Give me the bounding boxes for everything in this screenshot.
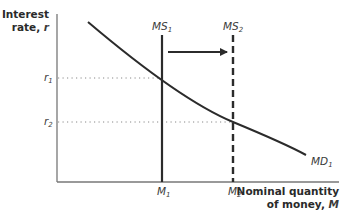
y-axis-title-line1: Interest [2,8,49,20]
m1-label: M1 [157,185,171,199]
x-axis-title-line2: of money, M [267,198,340,210]
money-market-diagram: Interest rate, r r1 r2 MS1 MS2 MD1 M1 M2… [0,0,354,219]
ms1-label: MS1 [152,20,172,34]
ms2-label: MS2 [223,20,244,34]
r2-label: r2 [44,115,53,129]
md1-label: MD1 [311,155,333,169]
x-axis-title-line1: Nominal quantity [237,185,340,197]
y-axis-title-line2: rate, r [12,21,50,33]
r1-label: r1 [44,71,53,85]
money-demand-curve [88,22,306,155]
